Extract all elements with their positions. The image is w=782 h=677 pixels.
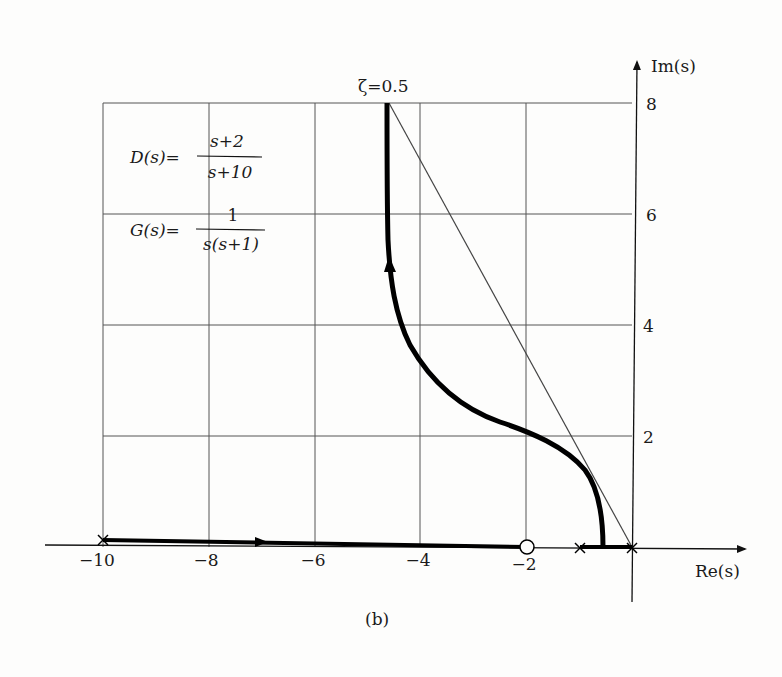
- g-denominator: s(s+1): [203, 234, 259, 254]
- zero-marker-minus-2: [520, 540, 534, 554]
- d-fraction-bar: [197, 156, 262, 157]
- x-tick-label: −8: [193, 550, 218, 570]
- y-axis-label: Im(s): [651, 56, 696, 76]
- x-axis-label: Re(s): [695, 561, 740, 581]
- x-tick-label: −4: [405, 550, 430, 570]
- figure-caption: (b): [365, 609, 389, 629]
- y-tick-label: 6: [646, 205, 657, 225]
- g-of-s-label: G(s)=: [130, 220, 180, 240]
- imag-axis: [632, 62, 637, 602]
- damping-ratio-label: ζ=0.5: [358, 76, 409, 96]
- g-fraction-bar: [196, 229, 265, 230]
- real-axis-arrow: [255, 537, 268, 547]
- branch-arrow: [384, 256, 396, 272]
- y-tick-label: 8: [646, 94, 657, 114]
- x-tick-label: −10: [79, 550, 115, 570]
- d-numerator: s+2: [210, 131, 244, 151]
- d-denominator: s+10: [208, 162, 253, 182]
- grid: [103, 103, 632, 547]
- y-tick-label: 2: [643, 427, 654, 447]
- y-tick-label: 4: [643, 316, 654, 336]
- g-numerator: 1: [228, 205, 239, 225]
- root-locus-plot: −10 −8 −6 −4 −2 2 4 6 8 Im(s) Re(s) ζ=0.…: [0, 0, 782, 677]
- x-tick-label: −2: [511, 554, 536, 574]
- x-tick-label: −6: [300, 550, 325, 570]
- d-of-s-label: D(s)=: [129, 147, 180, 167]
